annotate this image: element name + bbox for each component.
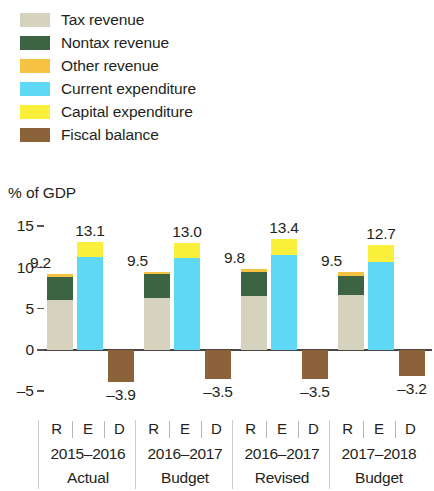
x-axis-group-0: RED2015–2016Actual	[41, 418, 135, 491]
x-axis-kind-r-group-3: R	[332, 418, 363, 442]
x-axis-status-2: Revised	[235, 466, 329, 490]
legend-swatch-other_revenue	[20, 59, 50, 73]
bar-segment-other-revenue	[47, 274, 73, 276]
bar-segment-capital-expenditure	[174, 243, 200, 258]
legend-item-other_revenue: Other revenue	[20, 54, 280, 77]
x-axis-kind-e-group-1: E	[169, 418, 200, 442]
bar-deficit-group-2	[302, 350, 328, 379]
y-axis-tick-label: 0	[0, 342, 34, 357]
x-axis-year-2: 2016–2017	[235, 442, 329, 466]
x-axis-kind-r-group-2: R	[235, 418, 266, 442]
value-label-expenditure-1: 13.0	[165, 224, 209, 239]
bar-segment-current-expenditure	[271, 255, 297, 350]
bar-segment-capital-expenditure	[77, 242, 103, 257]
bar-segment-tax-revenue	[338, 295, 364, 350]
bar-segment-tax-revenue	[241, 296, 267, 350]
bar-expenditure-group-1	[174, 243, 200, 350]
x-axis-kind-r-group-1: R	[138, 418, 169, 442]
bar-segment-nontax-revenue	[47, 277, 73, 301]
x-axis-kind-row: RED	[332, 418, 426, 442]
x-axis-kind-row: RED	[235, 418, 329, 442]
legend-swatch-fiscal_balance	[20, 128, 50, 142]
legend-item-nontax_revenue: Nontax revenue	[20, 31, 280, 54]
legend-item-fiscal_balance: Fiscal balance	[20, 123, 280, 146]
x-axis-kind-d-group-0: D	[104, 418, 135, 442]
bar-segment-nontax-revenue	[338, 276, 364, 295]
bar-expenditure-group-3	[368, 245, 394, 350]
bar-deficit-group-3	[399, 350, 425, 376]
plot-area: 151050–59.213.1–3.99.513.0–3.59.813.4–3.…	[0, 206, 434, 406]
bar-segment-current-expenditure	[174, 258, 200, 350]
bar-segment-capital-expenditure	[368, 245, 394, 262]
x-axis-group-separator	[38, 420, 39, 489]
x-axis-group-separator	[135, 420, 136, 489]
value-label-expenditure-3: 12.7	[359, 226, 403, 241]
bar-deficit-group-0	[108, 350, 134, 382]
value-label-deficit-3: –3.2	[387, 381, 434, 396]
legend-label-current_expenditure: Current expenditure	[61, 81, 196, 96]
x-axis-year-3: 2017–2018	[332, 442, 426, 466]
bar-revenue-group-1	[144, 272, 170, 350]
x-axis-kind-d-group-1: D	[201, 418, 232, 442]
x-axis-group-separator	[329, 420, 330, 489]
x-axis-kind-e-group-0: E	[72, 418, 103, 442]
x-axis-kind-d-group-3: D	[395, 418, 426, 442]
y-axis-tick-mark	[37, 349, 44, 351]
x-axis-kind-e-group-3: E	[363, 418, 394, 442]
legend-label-other_revenue: Other revenue	[61, 58, 159, 73]
bar-segment-current-expenditure	[77, 257, 103, 350]
bar-revenue-group-2	[241, 269, 267, 350]
bar-segment-other-revenue	[241, 269, 267, 271]
y-axis-tick-label: 5	[0, 301, 34, 316]
x-axis-kind-row: RED	[138, 418, 232, 442]
y-axis-tick-mark	[37, 225, 44, 227]
y-axis-tick-mark	[37, 308, 44, 310]
value-label-deficit-0: –3.9	[96, 387, 146, 402]
bar-deficit-group-1	[205, 350, 231, 379]
bar-segment-capital-expenditure	[271, 239, 297, 255]
y-axis-tick-mark	[37, 390, 44, 392]
legend-item-capital_expenditure: Capital expenditure	[20, 100, 280, 123]
x-axis-group-1: RED2016–2017Budget	[138, 418, 232, 491]
legend-swatch-nontax_revenue	[20, 36, 50, 50]
bar-segment-nontax-revenue	[144, 274, 170, 298]
legend-label-nontax_revenue: Nontax revenue	[61, 35, 169, 50]
bar-segment-other-revenue	[144, 272, 170, 274]
bar-segment-current-expenditure	[368, 262, 394, 350]
x-axis-kind-d-group-2: D	[298, 418, 329, 442]
x-axis-group-2: RED2016–2017Revised	[235, 418, 329, 491]
legend-label-fiscal_balance: Fiscal balance	[61, 127, 159, 142]
bar-segment-other-revenue	[338, 272, 364, 276]
x-axis-group-separator	[232, 420, 233, 489]
legend-swatch-capital_expenditure	[20, 105, 50, 119]
x-axis-kind-row: RED	[41, 418, 135, 442]
x-axis-kind-r-group-0: R	[41, 418, 72, 442]
legend-swatch-tax_revenue	[20, 13, 50, 27]
value-label-expenditure-0: 13.1	[68, 223, 112, 238]
chart-legend: Tax revenueNontax revenueOther revenueCu…	[20, 8, 280, 146]
y-axis-tick-label: 15	[0, 218, 34, 233]
legend-item-tax_revenue: Tax revenue	[20, 8, 280, 31]
y-axis-tick-label: 10	[0, 260, 34, 275]
x-axis-kind-e-group-2: E	[266, 418, 297, 442]
bar-segment-tax-revenue	[144, 298, 170, 350]
x-axis-year-0: 2015–2016	[41, 442, 135, 466]
y-axis-tick-label: –5	[0, 383, 34, 398]
legend-label-tax_revenue: Tax revenue	[61, 12, 144, 27]
x-axis-status-1: Budget	[138, 466, 232, 490]
legend-swatch-current_expenditure	[20, 82, 50, 96]
legend-item-current_expenditure: Current expenditure	[20, 77, 280, 100]
value-label-expenditure-2: 13.4	[262, 220, 306, 235]
value-label-deficit-2: –3.5	[290, 384, 340, 399]
bar-expenditure-group-2	[271, 239, 297, 350]
value-label-deficit-1: –3.5	[193, 384, 243, 399]
legend-label-capital_expenditure: Capital expenditure	[61, 104, 193, 119]
bar-expenditure-group-0	[77, 242, 103, 350]
x-axis-status-3: Budget	[332, 466, 426, 490]
y-axis-title: % of GDP	[8, 184, 76, 202]
x-axis-group-3: RED2017–2018Budget	[332, 418, 426, 491]
bar-revenue-group-3	[338, 272, 364, 350]
bar-segment-nontax-revenue	[241, 272, 267, 296]
bar-revenue-group-0	[47, 274, 73, 350]
bar-segment-tax-revenue	[47, 300, 73, 350]
